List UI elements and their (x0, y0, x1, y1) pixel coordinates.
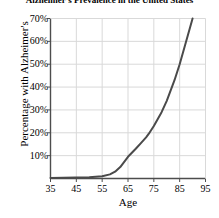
data-series-line (51, 19, 193, 179)
alzheimers-prevalence-chart: Alzheimer's Prevalence in the United Sta… (0, 0, 219, 218)
gridlines (51, 19, 206, 179)
plot-area (0, 0, 219, 218)
